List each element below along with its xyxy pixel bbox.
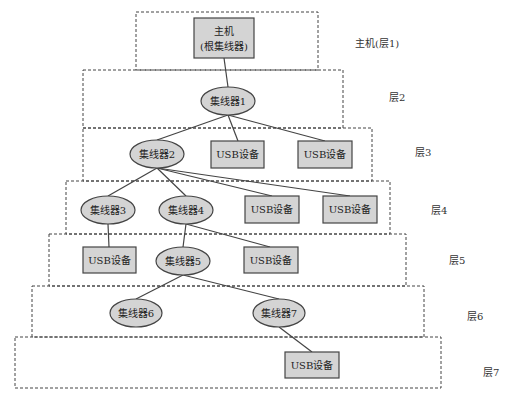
hub1-label: 集线器1 (210, 95, 246, 107)
dev3a-label: USB设备 (216, 148, 259, 160)
node-dev3b: USB设备 (298, 141, 352, 168)
node-hub1: 集线器1 (201, 87, 255, 115)
node-dev5b: USB设备 (244, 247, 298, 273)
layer6-box (32, 286, 424, 337)
node-dev4b: USB设备 (323, 196, 377, 223)
dev7-label: USB设备 (291, 359, 334, 371)
dev4a-label: USB设备 (251, 203, 294, 215)
hub4-label: 集线器4 (168, 204, 204, 216)
hub5-label: 集线器5 (165, 255, 201, 267)
hub6-label: 集线器6 (118, 307, 154, 319)
node-hub5: 集线器5 (156, 247, 210, 275)
layer3-label: 层3 (415, 147, 431, 158)
layer6-label: 层6 (467, 311, 483, 322)
node-hub6: 集线器6 (110, 299, 162, 327)
dev3b-label: USB设备 (304, 148, 347, 160)
layer1-label: 主机(层1) (355, 37, 399, 49)
dev5a-label: USB设备 (88, 254, 131, 266)
layer2-label: 层2 (389, 92, 405, 103)
node-hub3: 集线器3 (81, 196, 135, 224)
hub2-label: 集线器2 (139, 148, 175, 160)
node-host: 主机 (根集线器) (194, 18, 254, 58)
hub3-label: 集线器3 (90, 204, 126, 216)
usb-topology-diagram: 主机 (根集线器) 集线器1 集线器2 USB设备 USB设备 集线器3 集线器… (0, 0, 511, 408)
node-hub2: 集线器2 (130, 140, 184, 168)
node-dev3a: USB设备 (211, 141, 264, 168)
layer7-label: 层7 (483, 367, 499, 378)
dev5b-label: USB设备 (250, 254, 293, 266)
node-dev5a: USB设备 (83, 247, 136, 273)
layer7-box (15, 337, 441, 388)
node-dev4a: USB设备 (245, 196, 299, 223)
dev4b-label: USB设备 (329, 203, 372, 215)
layer5-label: 层5 (449, 255, 465, 266)
host-label-line1: 主机 (214, 25, 234, 37)
hub7-label: 集线器7 (261, 307, 297, 319)
node-hub4: 集线器4 (159, 196, 213, 224)
host-label-line2: (根集线器) (200, 40, 248, 52)
node-dev7: USB设备 (285, 352, 339, 378)
layer4-label: 层4 (431, 205, 447, 216)
node-hub7: 集线器7 (253, 299, 305, 327)
